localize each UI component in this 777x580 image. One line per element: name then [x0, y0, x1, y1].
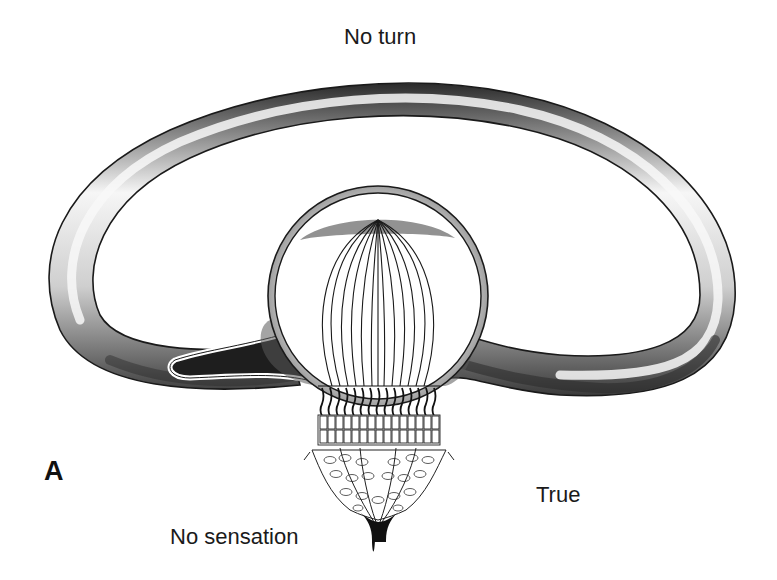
panel-letter: A: [44, 456, 64, 487]
supporting-cells: [304, 415, 454, 522]
bottom-left-label: No sensation: [170, 524, 298, 550]
ampulla: [261, 186, 488, 406]
top-label: No turn: [344, 24, 416, 50]
semicircular-canal-diagram: [0, 0, 777, 580]
bottom-right-label: True: [536, 482, 580, 508]
